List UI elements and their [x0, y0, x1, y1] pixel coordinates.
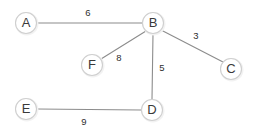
- graph-node-c[interactable]: C: [220, 58, 243, 81]
- graph-diagram-canvas: ABCDEF 63859: [0, 0, 254, 133]
- edge-weight-b-c: 3: [193, 30, 198, 41]
- node-label-d: D: [147, 102, 156, 117]
- graph-node-a[interactable]: A: [15, 12, 38, 35]
- graph-edge-b-c: [161, 30, 223, 62]
- edge-weight-e-d: 9: [81, 116, 86, 127]
- node-label-a: A: [22, 15, 31, 30]
- graph-node-b[interactable]: B: [142, 12, 165, 35]
- graph-node-e[interactable]: E: [15, 98, 38, 121]
- node-label-c: C: [226, 61, 235, 76]
- node-label-f: F: [88, 57, 96, 72]
- nodes-layer: ABCDEF: [15, 12, 243, 122]
- graph-edge-b-d: [152, 34, 153, 99]
- graph-edge-e-d: [37, 109, 141, 110]
- node-label-e: E: [22, 101, 31, 116]
- graph-edge-b-f: [101, 31, 146, 59]
- edge-weight-b-f: 8: [116, 52, 121, 63]
- edge-weight-b-d: 5: [159, 62, 164, 73]
- graph-node-d[interactable]: D: [141, 99, 164, 122]
- edge-weight-a-b: 6: [85, 7, 90, 18]
- node-label-b: B: [149, 15, 158, 30]
- graph-node-f[interactable]: F: [81, 54, 104, 77]
- graph-svg: ABCDEF 63859: [0, 0, 254, 133]
